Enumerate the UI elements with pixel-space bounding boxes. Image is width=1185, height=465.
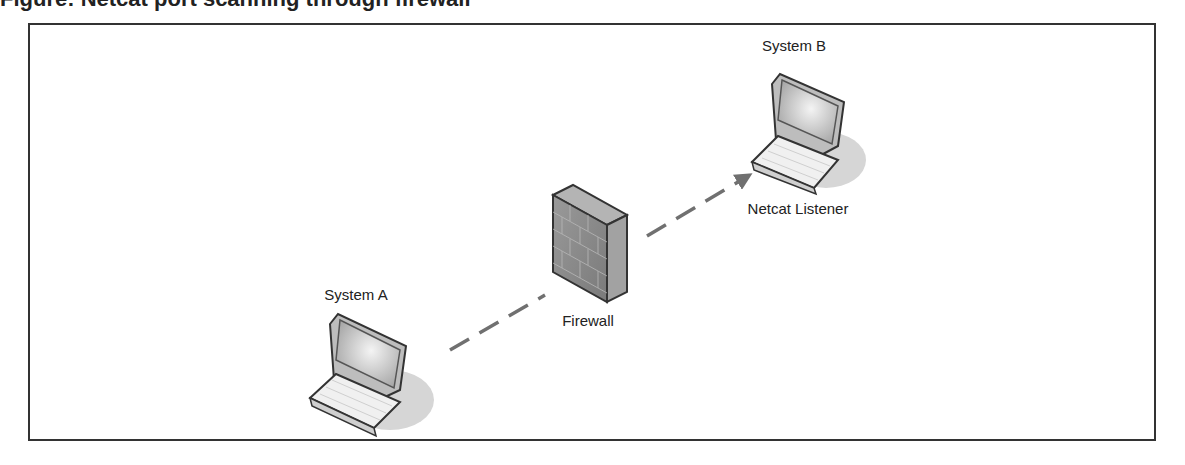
edge-firewall-to-system-b — [647, 176, 748, 236]
firewall-label: Firewall — [562, 312, 614, 329]
edge-system-a-to-firewall — [450, 295, 545, 350]
system-b-laptop-icon — [752, 74, 866, 194]
firewall-icon — [553, 185, 627, 302]
system-a-label: System A — [324, 286, 387, 303]
system-b-label: System B — [762, 37, 826, 54]
netcat-listener-label: Netcat Listener — [748, 200, 849, 217]
network-diagram — [0, 0, 1185, 465]
system-a-laptop-icon — [310, 314, 434, 436]
